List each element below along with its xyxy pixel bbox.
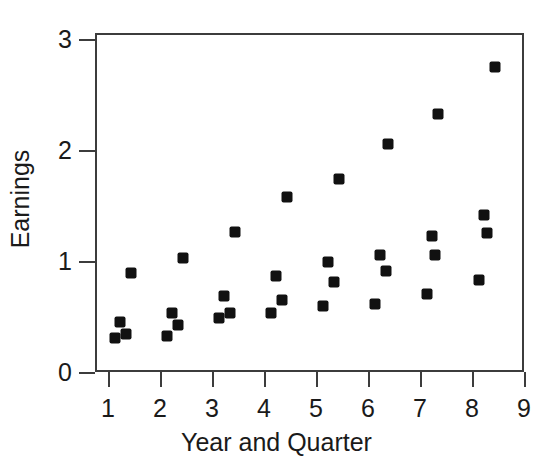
x-axis-tick	[212, 372, 214, 387]
plot-frame	[95, 33, 524, 372]
x-axis-tick	[524, 372, 526, 387]
data-point-marker	[167, 307, 178, 318]
x-axis-tick-label: 6	[348, 394, 388, 422]
x-axis-tick	[264, 372, 266, 387]
y-axis-tick	[79, 372, 95, 374]
y-axis-title: Earnings	[6, 84, 34, 314]
y-axis-tick	[79, 39, 95, 41]
data-point-marker	[115, 316, 126, 327]
data-point-marker	[110, 333, 121, 344]
x-axis-tick	[160, 372, 162, 387]
x-axis-tick	[472, 372, 474, 387]
data-point-marker	[224, 307, 235, 318]
data-point-marker	[219, 291, 230, 302]
plot-area	[97, 35, 522, 370]
x-axis-tick-label: 4	[244, 394, 284, 422]
data-point-marker	[333, 174, 344, 185]
data-point-marker	[120, 328, 131, 339]
y-axis-tick-label: 2	[44, 137, 72, 162]
data-point-marker	[125, 267, 136, 278]
y-axis-title-wrap: Earnings	[0, 0, 34, 405]
data-point-marker	[266, 307, 277, 318]
x-axis-tick-label: 2	[140, 394, 180, 422]
x-axis-tick	[368, 372, 370, 387]
y-axis-tick-label: 0	[44, 360, 72, 385]
x-axis-tick	[420, 372, 422, 387]
data-point-marker	[432, 108, 443, 119]
data-point-marker	[380, 265, 391, 276]
data-point-marker	[422, 288, 433, 299]
x-axis-title: Year and Quarter	[0, 428, 553, 456]
data-point-marker	[328, 276, 339, 287]
x-axis-tick-label: 3	[192, 394, 232, 422]
data-point-marker	[474, 274, 485, 285]
data-point-marker	[172, 320, 183, 331]
y-axis-tick-label: 3	[44, 26, 72, 51]
data-point-marker	[479, 210, 490, 221]
data-point-marker	[323, 256, 334, 267]
x-axis-tick-label: 1	[88, 394, 128, 422]
x-axis-tick-label: 9	[504, 394, 544, 422]
scatter-chart-figure: Earnings 0123 123456789 Year and Quarter	[0, 0, 553, 469]
data-point-marker	[281, 192, 292, 203]
x-axis-tick-label: 8	[452, 394, 492, 422]
data-point-marker	[162, 331, 173, 342]
y-axis-tick	[79, 150, 95, 152]
data-point-marker	[214, 313, 225, 324]
data-point-marker	[318, 301, 329, 312]
data-point-marker	[229, 226, 240, 237]
x-axis-tick-label: 7	[400, 394, 440, 422]
x-axis-tick-label: 5	[296, 394, 336, 422]
data-point-marker	[276, 294, 287, 305]
data-point-marker	[271, 271, 282, 282]
data-point-marker	[427, 231, 438, 242]
data-point-marker	[430, 250, 441, 261]
data-point-marker	[489, 62, 500, 73]
y-axis-tick	[79, 261, 95, 263]
data-point-marker	[370, 298, 381, 309]
data-point-marker	[482, 227, 493, 238]
data-point-marker	[177, 253, 188, 264]
y-axis-tick-label: 1	[44, 248, 72, 273]
x-axis-tick	[108, 372, 110, 387]
data-point-marker	[383, 138, 394, 149]
x-axis-tick	[316, 372, 318, 387]
data-point-marker	[375, 250, 386, 261]
